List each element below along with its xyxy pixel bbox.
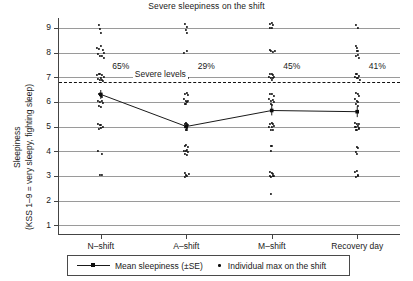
mean-series-line xyxy=(58,18,400,235)
severe-level-label: Severe levels xyxy=(133,69,188,79)
x-tick-mark-2 xyxy=(272,235,273,239)
mean-marker xyxy=(270,109,274,113)
severe-level-threshold-line xyxy=(59,82,400,83)
x-tick-mark-0 xyxy=(101,235,102,239)
percentage-annotation-1: 29% xyxy=(198,61,215,71)
legend-label-individual-max: Individual max on the shift xyxy=(228,261,326,271)
legend-entry-individual-max: Individual max on the shift xyxy=(216,261,326,271)
y-tick-label-6: 6 xyxy=(38,97,51,105)
mean-marker xyxy=(185,125,189,129)
y-tick-label-8: 8 xyxy=(38,48,51,56)
percentage-annotation-0: 65% xyxy=(112,61,129,71)
mean-marker xyxy=(355,110,359,114)
mean-marker xyxy=(99,93,103,97)
x-tick-label-0: N–shift xyxy=(88,241,114,251)
x-tick-label-1: A–shift xyxy=(173,241,199,251)
chart-title: Severe sleepiness on the shift xyxy=(0,1,413,11)
x-tick-label-3: Recovery day xyxy=(331,241,383,251)
line-square-marker-icon xyxy=(77,262,110,270)
y-tick-label-5: 5 xyxy=(38,122,51,130)
percentage-annotation-2: 45% xyxy=(283,61,300,71)
y-axis-label-line2: (KSS 1–9 = very sleepy, fighting sleep) xyxy=(24,84,34,230)
x-tick-mark-1 xyxy=(186,235,187,239)
y-tick-label-9: 9 xyxy=(38,23,51,31)
chart-figure: Severe sleepiness on the shift Sleepines… xyxy=(0,0,413,281)
y-tick-label-7: 7 xyxy=(38,73,51,81)
y-axis-label-line1: Sleepiness xyxy=(12,126,22,168)
legend-entry-mean-sleepiness: Mean sleepiness (±SE) xyxy=(77,261,203,271)
chart-legend: Mean sleepiness (±SE) Individual max on … xyxy=(67,255,350,276)
y-tick-label-4: 4 xyxy=(38,147,51,155)
x-tick-mark-3 xyxy=(357,235,358,239)
y-tick-label-3: 3 xyxy=(38,171,51,179)
y-tick-label-2: 2 xyxy=(38,196,51,204)
y-tick-label-1: 1 xyxy=(38,221,51,229)
percentage-annotation-3: 41% xyxy=(369,61,386,71)
x-tick-label-2: M–shift xyxy=(258,241,285,251)
legend-label-mean-sleepiness: Mean sleepiness (±SE) xyxy=(115,261,203,271)
dot-marker-icon xyxy=(216,262,224,270)
y-axis-label: Sleepiness (KSS 1–9 = very sleepy, fight… xyxy=(0,18,30,235)
plot-area: 123456789 N–shiftA–shiftM–shiftRecovery … xyxy=(58,18,400,235)
